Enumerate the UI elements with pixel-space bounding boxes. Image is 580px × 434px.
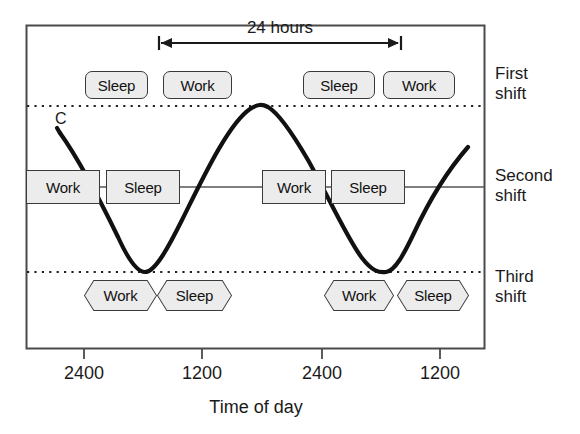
shift-block-label: Sleep [349,179,386,196]
shift-block-label: Sleep [320,77,357,94]
shift-block-label: Sleep [176,287,213,304]
curve-label-leader [57,128,60,133]
shift-name-line2: shift [495,84,528,104]
shift-block-label: Work [46,179,80,196]
shift-name-second: Secondshift [495,166,553,206]
shift-block-first-sleep: Sleep [85,71,148,99]
shift-block-label: Work [402,77,436,94]
shift-block-first-work: Work [383,71,455,99]
span-arrow [159,36,401,50]
shift-name-line1: First [495,64,528,84]
shift-name-third: Thirdshift [495,267,534,307]
shift-block-first-sleep: Sleep [303,71,375,99]
shift-block-third-work: Work [85,281,156,310]
figure-root: 24 hours C SleepWorkSleepWorkWorkSleepWo… [0,0,580,434]
axis-tick-label: 2400 [302,363,342,384]
shift-name-line2: shift [495,287,534,307]
shift-block-second-work: Work [262,170,326,204]
shift-block-label: Work [104,287,138,304]
shift-name-first: Firstshift [495,64,528,104]
shift-block-first-work: Work [163,71,232,99]
shift-block-label: Work [181,77,215,94]
shift-block-third-sleep: Sleep [398,281,468,310]
shift-block-label: Sleep [414,287,451,304]
shift-name-line1: Third [495,267,534,287]
shift-block-second-work: Work [26,170,100,204]
curve-label-c: C [55,110,67,128]
axis-tick-label: 2400 [64,363,104,384]
shift-block-label: Sleep [124,179,161,196]
shift-name-line1: Second [495,166,553,186]
shift-block-label: Work [277,179,311,196]
shift-block-second-sleep: Sleep [106,170,180,204]
shift-block-third-work: Work [325,281,393,310]
axis-title: Time of day [209,397,302,418]
shift-block-second-sleep: Sleep [331,170,405,204]
axis-tick-label: 1200 [420,363,460,384]
shift-name-line2: shift [495,186,553,206]
shift-block-label: Sleep [98,77,135,94]
shift-block-label: Work [342,287,376,304]
shift-block-third-sleep: Sleep [158,281,231,310]
span-label: 24 hours [247,18,313,38]
axis-tick-marks [84,349,440,359]
axis-tick-label: 1200 [182,363,222,384]
